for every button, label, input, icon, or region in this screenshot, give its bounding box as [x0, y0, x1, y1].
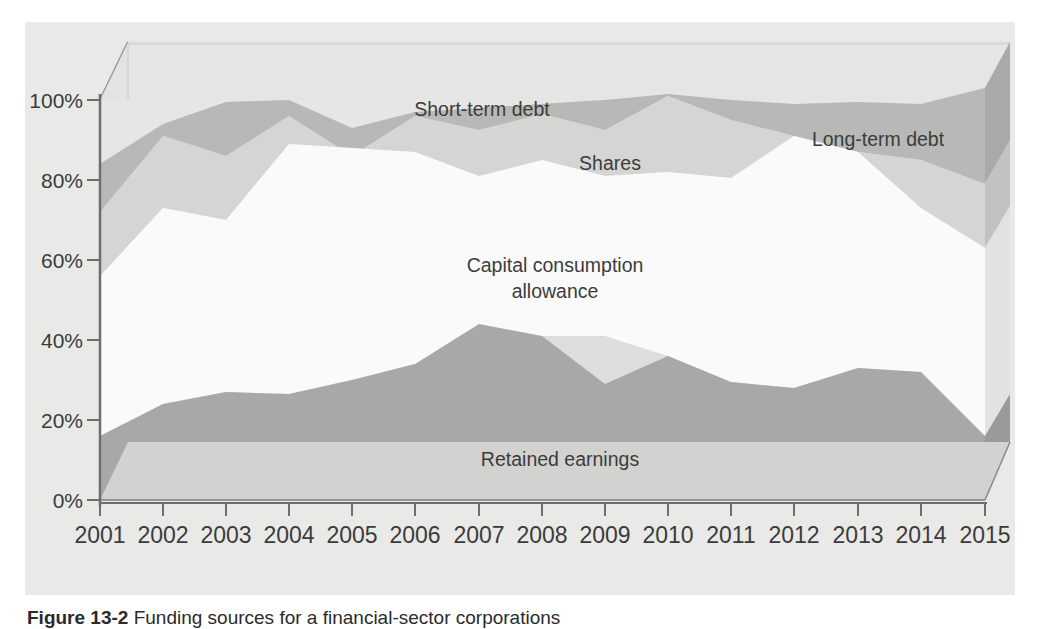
x-tick-label-2001: 2001 [74, 522, 125, 548]
series-label-long-term-debt: Long-term debt [812, 128, 945, 150]
x-tick-label-2002: 2002 [137, 522, 188, 548]
x-axis: 2001 2002 2003 2004 2005 2006 2007 2008 … [74, 503, 1010, 548]
y-axis-ticks [87, 100, 100, 500]
series-label-capital-consumption-allowance-line2: allowance [512, 280, 599, 302]
x-tick-label-2006: 2006 [389, 522, 440, 548]
y-tick-label-20: 20% [41, 409, 83, 432]
area-depth-extrusions [100, 42, 1010, 100]
x-tick-label-2007: 2007 [453, 522, 504, 548]
x-axis-ticks [100, 503, 985, 516]
y-tick-label-80: 80% [41, 169, 83, 192]
short-term-debt-depth [100, 42, 1010, 100]
figure-caption-prefix: Figure 13-2 [27, 607, 128, 628]
x-tick-label-2012: 2012 [768, 522, 819, 548]
x-tick-label-2010: 2010 [642, 522, 693, 548]
x-tick-label-2003: 2003 [200, 522, 251, 548]
stacked-area-chart: 100% 80% 60% 40% 20% 0% [25, 22, 1015, 595]
x-tick-label-2004: 2004 [263, 522, 314, 548]
x-tick-label-2014: 2014 [895, 522, 946, 548]
x-tick-label-2011: 2011 [706, 522, 755, 548]
x-tick-label-2005: 2005 [326, 522, 377, 548]
figure-caption-text: Funding sources for a financial-sector c… [134, 607, 561, 628]
y-tick-label-60: 60% [41, 249, 83, 272]
x-tick-label-2015: 2015 [959, 522, 1010, 548]
y-axis: 100% 80% 60% 40% 20% 0% [29, 89, 100, 512]
x-tick-label-2013: 2013 [832, 522, 883, 548]
x-tick-label-2009: 2009 [579, 522, 630, 548]
y-tick-label-40: 40% [41, 329, 83, 352]
series-label-short-term-debt: Short-term debt [414, 98, 550, 120]
series-label-shares: Shares [579, 152, 641, 174]
right-depth-face [985, 42, 1010, 500]
series-label-capital-consumption-allowance-line1: Capital consumption [467, 254, 644, 276]
x-tick-label-2008: 2008 [516, 522, 567, 548]
figure-caption: Figure 13-2 Funding sources for a financ… [27, 607, 560, 629]
y-tick-label-0: 0% [53, 489, 83, 512]
series-label-retained-earnings: Retained earnings [481, 448, 640, 470]
y-tick-label-100: 100% [29, 89, 83, 112]
chart-panel: 100% 80% 60% 40% 20% 0% [25, 22, 1015, 595]
